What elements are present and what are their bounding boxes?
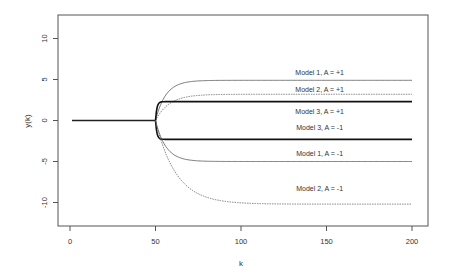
curve-label: Model 2, A = +1 <box>295 86 344 93</box>
series-line-1 <box>156 80 413 120</box>
x-axis-label: k <box>239 259 244 268</box>
series-line-4 <box>156 121 413 140</box>
series-line-6 <box>156 121 413 205</box>
x-axis: 050100150200 <box>68 226 418 246</box>
curve-label: Model 3, A = +1 <box>295 108 344 115</box>
series-line-3 <box>156 102 413 121</box>
curve-label: Model 1, A = -1 <box>296 150 343 157</box>
curve-label: Model 2, A = -1 <box>296 185 343 192</box>
y-tick-label: -5 <box>40 158 49 165</box>
curve-labels: Model 1, A = +1Model 2, A = +1Model 3, A… <box>295 69 344 192</box>
x-tick-label: 150 <box>320 237 333 246</box>
x-tick-label: 50 <box>151 237 159 246</box>
x-tick-label: 0 <box>68 237 72 246</box>
y-tick-label: 0 <box>40 118 49 122</box>
series-layer <box>72 80 412 204</box>
series-line-5 <box>156 121 413 162</box>
x-tick-label: 200 <box>406 237 419 246</box>
series-line-2 <box>156 94 413 120</box>
curve-label: Model 1, A = +1 <box>295 69 344 76</box>
x-tick-label: 100 <box>235 237 248 246</box>
line-chart: Model 1, A = +1Model 2, A = +1Model 3, A… <box>0 0 449 277</box>
y-tick-label: -10 <box>40 197 49 208</box>
y-axis-label: y(k) <box>23 114 32 128</box>
y-axis: -10-50510 <box>40 34 58 208</box>
y-tick-label: 10 <box>40 34 49 42</box>
y-tick-label: 5 <box>40 77 49 81</box>
curve-label: Model 3, A = -1 <box>296 124 343 131</box>
